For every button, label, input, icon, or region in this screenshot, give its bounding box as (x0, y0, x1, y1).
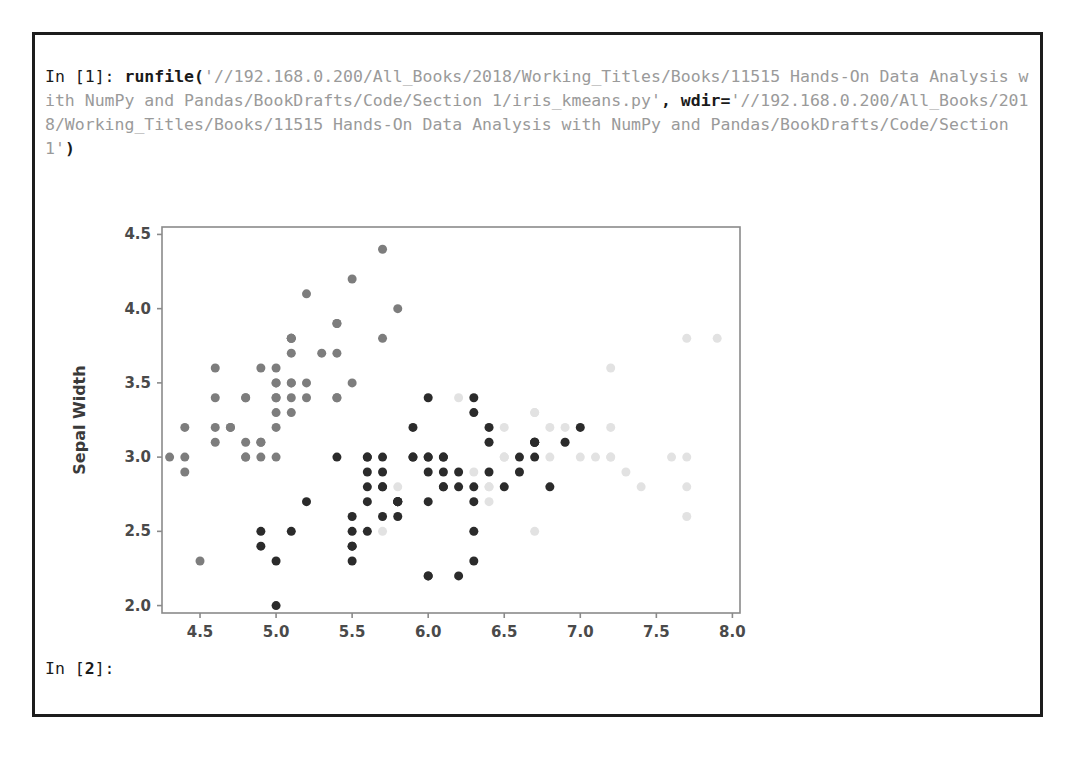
x-tick-label: 6.5 (491, 623, 518, 641)
data-point (226, 423, 235, 432)
data-point (606, 453, 615, 462)
data-point (180, 467, 189, 476)
data-point (256, 542, 265, 551)
data-point (287, 408, 296, 417)
data-point (211, 364, 220, 373)
data-point (621, 467, 630, 476)
data-point (545, 453, 554, 462)
data-point (469, 557, 478, 566)
data-point (591, 453, 600, 462)
x-tick-label: 5.0 (263, 623, 290, 641)
data-point (424, 453, 433, 462)
data-point (424, 571, 433, 580)
data-point (211, 438, 220, 447)
y-tick-label: 4.5 (124, 225, 151, 243)
data-point (682, 453, 691, 462)
data-point (682, 512, 691, 521)
data-point (302, 378, 311, 387)
y-tick-label: 3.5 (124, 374, 151, 392)
input-prompt-2-number: 2 (85, 659, 95, 678)
scatter-plot-figure: 4.55.05.56.06.57.07.58.02.02.53.03.54.04… (55, 165, 755, 645)
data-point (439, 467, 448, 476)
x-tick-label: 7.0 (567, 623, 594, 641)
data-point (272, 557, 281, 566)
data-point (378, 453, 387, 462)
data-point (332, 453, 341, 462)
data-point (439, 453, 448, 462)
data-point (667, 453, 676, 462)
space-1 (115, 67, 125, 86)
console-output-block: In [1]: runfile('//192.168.0.200/All_Boo… (45, 41, 1035, 185)
data-point (272, 378, 281, 387)
data-point (515, 467, 524, 476)
data-point (469, 467, 478, 476)
data-point (485, 423, 494, 432)
data-point (272, 453, 281, 462)
ipython-console-panel: In [1]: runfile('//192.168.0.200/All_Boo… (32, 32, 1043, 717)
data-point (530, 438, 539, 447)
data-point (348, 527, 357, 536)
data-point (439, 482, 448, 491)
data-point (485, 482, 494, 491)
data-point (363, 453, 372, 462)
data-point (287, 527, 296, 536)
data-point (378, 512, 387, 521)
data-point (180, 453, 189, 462)
data-point (393, 304, 402, 313)
data-point (469, 527, 478, 536)
data-point (408, 423, 417, 432)
data-point (287, 378, 296, 387)
y-tick-label: 2.0 (124, 597, 151, 615)
data-point (302, 497, 311, 506)
runfile-call: runfile( (124, 67, 203, 86)
data-point (561, 423, 570, 432)
data-point (348, 274, 357, 283)
data-point (378, 467, 387, 476)
data-point (500, 453, 509, 462)
data-point (180, 423, 189, 432)
data-point (713, 334, 722, 343)
data-point (530, 408, 539, 417)
data-point (561, 438, 570, 447)
data-point (378, 527, 387, 536)
x-tick-label: 6.0 (415, 623, 442, 641)
data-point (515, 453, 524, 462)
data-point (682, 334, 691, 343)
data-point (378, 245, 387, 254)
data-point (485, 438, 494, 447)
data-point (530, 453, 539, 462)
wdir-keyword: wdir= (681, 91, 731, 110)
data-point (576, 453, 585, 462)
data-point (363, 527, 372, 536)
data-point (272, 393, 281, 402)
data-point (454, 467, 463, 476)
data-point (378, 482, 387, 491)
data-point (485, 467, 494, 476)
data-point (211, 423, 220, 432)
data-point (637, 482, 646, 491)
data-point (469, 393, 478, 402)
data-point (256, 364, 265, 373)
data-point (317, 349, 326, 358)
data-point (378, 334, 387, 343)
data-point (469, 497, 478, 506)
y-tick-label: 3.0 (124, 448, 151, 466)
plot-frame (162, 227, 740, 613)
data-point (682, 482, 691, 491)
data-point (606, 423, 615, 432)
data-point (302, 289, 311, 298)
input-prompt-2[interactable]: In [2]: (45, 657, 115, 681)
data-point (348, 512, 357, 521)
x-tick-label: 7.5 (643, 623, 670, 641)
data-point (332, 393, 341, 402)
data-point (363, 497, 372, 506)
data-point (241, 453, 250, 462)
data-point (332, 349, 341, 358)
series-cluster-1 (256, 393, 584, 610)
data-point (393, 512, 402, 521)
data-point (287, 349, 296, 358)
data-point (272, 408, 281, 417)
data-point (576, 423, 585, 432)
data-point (363, 467, 372, 476)
input-prompt-2-post: ]: (95, 659, 115, 678)
